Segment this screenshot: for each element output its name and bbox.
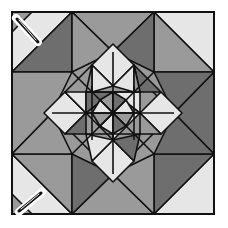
quilt-block	[0, 0, 228, 228]
quilt-diagram: Quilt block pattern	[0, 0, 228, 228]
